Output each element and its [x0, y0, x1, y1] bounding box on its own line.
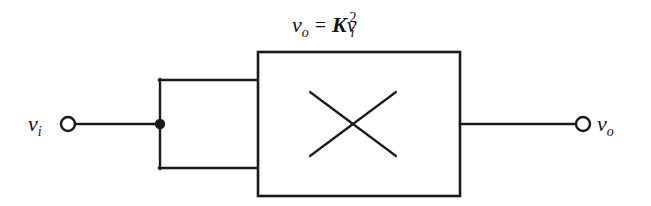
equation-lhs-subscript: o [302, 25, 309, 40]
output-terminal-circle [576, 117, 590, 131]
input-signal-label: vi [28, 113, 42, 135]
output-label-var: v [597, 111, 607, 136]
equation-rhs-superscript: 2 [350, 10, 357, 25]
transfer-function-equation: vo=Kv2i [292, 14, 367, 36]
input-label-var: v [28, 111, 38, 136]
equation-lhs-var: v [292, 12, 302, 37]
equation-rhs-subscript: i [351, 25, 355, 40]
equation-equals-sign: = [309, 14, 332, 36]
junction-dot [155, 119, 165, 129]
input-terminal-circle [61, 117, 75, 131]
multiplier-block [258, 52, 460, 196]
circuit-diagram: vo=Kv2i vi vo [0, 0, 651, 206]
input-label-subscript: i [38, 124, 42, 139]
output-label-subscript: o [607, 124, 614, 139]
output-signal-label: vo [597, 113, 614, 135]
equation-gain-symbol: K [332, 12, 347, 37]
